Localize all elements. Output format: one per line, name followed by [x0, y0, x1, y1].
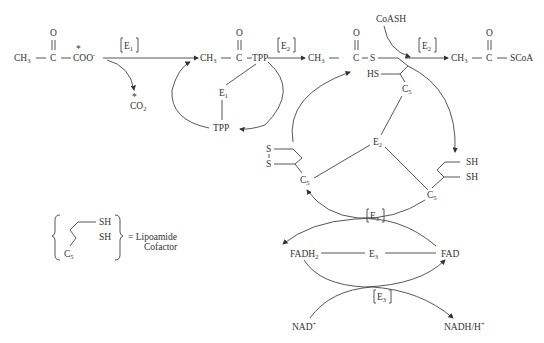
- svg-text:C5: C5: [64, 249, 74, 260]
- fadh2-oxidation-arrow: [304, 260, 445, 287]
- e1-label: E1: [219, 88, 228, 99]
- e2-c5-bond-right: [385, 147, 428, 190]
- svg-text:COO-: COO-: [73, 51, 95, 63]
- reduced-lipoamide: SH SH C5: [427, 157, 478, 201]
- oxidized-lipoamide: S S C5: [266, 144, 310, 186]
- svg-text:SH: SH: [99, 232, 111, 242]
- svg-text:SH: SH: [99, 217, 111, 227]
- reoxidation-arrow: [307, 190, 425, 218]
- svg-text:E3: E3: [370, 211, 379, 222]
- svg-text:E2: E2: [281, 41, 290, 52]
- e2-c5-bond-left: [314, 145, 370, 178]
- tpp-label: TPP: [213, 123, 229, 133]
- transfer-arrow: [408, 66, 455, 152]
- svg-text:E3: E3: [377, 292, 386, 303]
- tpp-e1-bond: [226, 64, 256, 85]
- pyruvate: CH3 C O * COO-: [14, 28, 95, 64]
- tpp-regen-arrow-left: [172, 62, 209, 128]
- e1-bracket-label: E1: [121, 38, 138, 52]
- nadh: NADH/H+: [444, 320, 485, 332]
- svg-text:CH3: CH3: [200, 53, 216, 64]
- e3-center-label: E3: [369, 249, 378, 260]
- acetyl-lipoamide: CH3 C O S HS C5: [308, 28, 412, 95]
- co2: * CO2: [130, 92, 146, 112]
- svg-text:C5: C5: [427, 190, 437, 201]
- svg-text:CO2: CO2: [130, 101, 146, 112]
- svg-text:C: C: [236, 53, 242, 63]
- pdh-reaction-diagram: CH3 C O * COO- E1 * CO2 CH3 C O TPP E1 T…: [0, 0, 544, 343]
- svg-text:E2: E2: [422, 41, 431, 52]
- svg-text:C: C: [50, 53, 56, 63]
- e2-center-label: E2: [373, 137, 382, 148]
- e2-bracket-label-b: E2: [419, 38, 436, 52]
- svg-text:O: O: [353, 28, 360, 38]
- svg-text:C5: C5: [300, 175, 310, 186]
- svg-text:S: S: [266, 144, 271, 154]
- svg-text:SH: SH: [466, 157, 478, 167]
- svg-text:Cofactor: Cofactor: [144, 242, 178, 252]
- svg-text:C: C: [486, 53, 492, 63]
- svg-text:O: O: [486, 28, 493, 38]
- svg-text:SH: SH: [466, 172, 478, 182]
- fad: FAD: [441, 249, 459, 259]
- svg-text:E1: E1: [124, 41, 133, 52]
- lipoamide-legend: SH SH C5 = Lipoamide Cofactor: [52, 215, 178, 260]
- tpp-regen-arrow-right: [240, 62, 283, 129]
- svg-text:S: S: [370, 53, 375, 63]
- fad-reduction-arrow: [283, 219, 436, 246]
- e3-bracket-label-b: E3: [374, 290, 391, 303]
- svg-text:CH3: CH3: [308, 53, 324, 64]
- acetyl-coa: CH3 C O SCoA: [451, 28, 533, 64]
- nad: NAD+: [292, 320, 317, 332]
- coash-arrow: [384, 26, 410, 57]
- svg-text:O: O: [50, 28, 57, 38]
- svg-text:= Lipoamide: = Lipoamide: [128, 232, 177, 242]
- svg-text:HS: HS: [367, 69, 379, 79]
- svg-text:CH3: CH3: [14, 53, 30, 64]
- svg-text:C5: C5: [402, 84, 412, 95]
- c5-e2-bond-top: [381, 96, 402, 135]
- right-brace: [115, 215, 123, 260]
- acetylation-arrow: [292, 72, 350, 142]
- acyl-tpp: CH3 C O TPP: [200, 28, 268, 64]
- e2-bracket-label-a: E2: [278, 38, 295, 52]
- fadh2: FADH2: [290, 249, 318, 260]
- svg-text:O: O: [236, 28, 243, 38]
- svg-text:SCoA: SCoA: [510, 53, 533, 63]
- coash: CoASH: [376, 14, 406, 24]
- svg-text:C: C: [353, 53, 359, 63]
- svg-text:CH3: CH3: [451, 53, 467, 64]
- co2-release-arrow: [107, 60, 134, 90]
- svg-text:TPP: TPP: [252, 53, 268, 63]
- left-brace: [52, 215, 60, 260]
- svg-text:S: S: [266, 159, 271, 169]
